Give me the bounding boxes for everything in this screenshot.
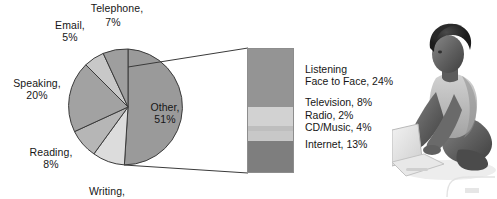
callout-line-bottom — [124, 165, 248, 173]
photo-illustration — [392, 18, 497, 199]
pie-label-email-value: 5% — [44, 32, 96, 44]
corner-watermark-icon — [443, 173, 495, 199]
photo-eye — [438, 51, 442, 54]
pie-label-speaking: Speaking, 20% — [2, 78, 72, 101]
photo-woman-with-laptop — [392, 18, 497, 199]
bar-segment-television — [248, 107, 293, 126]
pie-label-speaking-value: 20% — [2, 90, 72, 102]
pie-label-reading: Reading, 8% — [18, 147, 84, 170]
photo-hand-right — [423, 145, 441, 155]
photo-laptop-trackpad — [406, 168, 428, 171]
pie-label-email: Email, 5% — [44, 20, 96, 43]
pie-label-telephone: Telephone, — [78, 3, 156, 15]
callout-line-top — [128, 48, 248, 67]
pie-label-reading-name: Reading, — [18, 147, 84, 159]
pie-label-email-name: Email, — [44, 20, 96, 32]
pie-label-writing: Writing, — [76, 186, 138, 198]
pie-label-speaking-name: Speaking, — [2, 78, 72, 90]
bar-segment-face-to-face — [248, 49, 293, 107]
figure-canvas: Other, 51% Telephone, 7% Email, 5% Speak… — [0, 0, 497, 199]
bar-segment-internet — [248, 141, 293, 172]
pie-label-telephone-name: Telephone, — [78, 3, 156, 15]
breakout-stacked-bar — [247, 48, 294, 173]
pie-label-writing-name: Writing, — [76, 186, 138, 198]
bar-segment-cd-music — [248, 131, 293, 141]
pie-label-reading-value: 8% — [18, 159, 84, 171]
